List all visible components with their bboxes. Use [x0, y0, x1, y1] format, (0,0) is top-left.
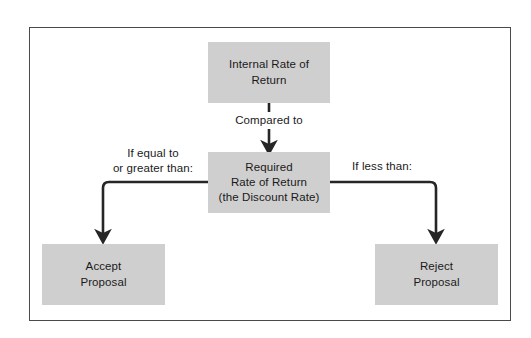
edge-label-compared-to: Compared to — [209, 113, 329, 128]
diagram-canvas: Internal Rate of Return Required Rate of… — [0, 0, 531, 338]
node-reject-proposal: Reject Proposal — [375, 244, 498, 305]
node-internal-rate-of-return: Internal Rate of Return — [208, 42, 330, 103]
node-accept-proposal-label: Accept Proposal — [74, 259, 132, 289]
edge-label-if-less-than: If less than: — [352, 159, 444, 174]
node-internal-rate-of-return-label: Internal Rate of Return — [223, 57, 315, 87]
node-required-rate-of-return: Required Rate of Return (the Discount Ra… — [208, 152, 330, 213]
edge-label-if-equal-or-greater: If equal to or greater than: — [103, 146, 203, 176]
node-accept-proposal: Accept Proposal — [42, 244, 165, 305]
node-reject-proposal-label: Reject Proposal — [407, 259, 465, 289]
node-required-rate-of-return-label: Required Rate of Return (the Discount Ra… — [213, 160, 326, 206]
